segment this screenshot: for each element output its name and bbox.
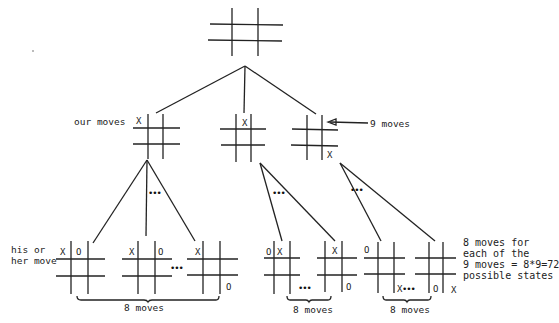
- mark-o: O: [158, 248, 163, 257]
- states-note: 8 moves for each of the 9 moves = 8*9=72…: [463, 237, 559, 281]
- brace-mid: [287, 296, 331, 302]
- mark-x: X: [242, 119, 247, 128]
- his-or-her-move-label: his or her move: [11, 244, 57, 266]
- ellipsis-l1-3: •••: [350, 186, 363, 195]
- ellipsis-l1-1: •••: [148, 189, 161, 198]
- mark-x: X: [277, 248, 282, 257]
- stray-dot: [32, 50, 33, 51]
- mark-x: X: [451, 286, 456, 295]
- root-branches: [156, 66, 316, 114]
- brace-right: [383, 296, 431, 302]
- branches-l1-3: [340, 163, 435, 241]
- ellipsis-l2-a: •••: [170, 264, 183, 273]
- brace-left-label: 8 moves: [124, 302, 164, 313]
- mark-x: X: [327, 151, 332, 160]
- ellipsis-l2-b: •••: [298, 284, 311, 293]
- branches-l1-1: [93, 160, 195, 243]
- mark-x: X: [195, 248, 200, 257]
- ellipsis-l1-2: •••: [272, 189, 285, 198]
- mark-o: O: [364, 246, 369, 255]
- ellipsis-l2-c: •••: [402, 285, 415, 294]
- mark-x: X: [397, 285, 402, 294]
- brace-mid-label: 8 moves: [293, 304, 333, 315]
- mark-o: O: [433, 285, 438, 294]
- mark-x: X: [332, 247, 337, 256]
- mark-x: X: [60, 248, 65, 257]
- mark-o: O: [226, 283, 231, 292]
- mark-x: X: [129, 248, 134, 257]
- mark-o: O: [76, 248, 81, 257]
- brace-right-label: 8 moves: [390, 304, 430, 315]
- mark-o: O: [266, 248, 271, 257]
- mark-x: X: [136, 117, 141, 126]
- mark-o: O: [346, 283, 351, 292]
- arrow-9-moves: [328, 119, 368, 125]
- nine-moves-label: 9 moves: [370, 118, 410, 129]
- board-root: [208, 8, 283, 56]
- branches-l1-2: [260, 163, 335, 241]
- our-moves-label: our moves: [74, 116, 125, 127]
